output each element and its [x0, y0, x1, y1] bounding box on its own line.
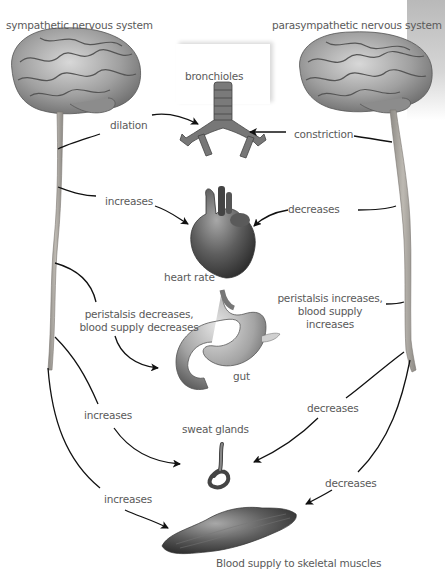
- dilation-arrow: [152, 114, 198, 124]
- para-sweat-effect: decreases: [307, 402, 358, 415]
- sym-bronchioles-effect: dilation: [110, 119, 147, 132]
- gut-icon: [176, 290, 280, 390]
- parasympathetic-title: parasympathetic nervous system: [272, 19, 442, 32]
- para-muscle-effect: decreases: [325, 477, 376, 490]
- skeletal-muscle-icon: [162, 507, 296, 553]
- sym-gut-effect-line1: peristalsis decreases,: [70, 308, 208, 321]
- gut-connector-right: [386, 302, 404, 304]
- heart-rate-label: heart rate: [164, 271, 215, 284]
- para-heart-effect: decreases: [288, 203, 339, 216]
- para-gut-effect-line1: peristalsis increases,: [276, 292, 384, 305]
- para-gut-effect-line3: increases: [276, 318, 384, 331]
- sweat-gland-icon: [210, 444, 229, 487]
- para-bronchioles-effect: constriction: [294, 128, 353, 141]
- para-gut-effect: peristalsis increases, blood supply incr…: [276, 292, 384, 331]
- bronchioles-label: bronchioles: [185, 70, 243, 83]
- sweat-arrow-right: [254, 418, 318, 462]
- right-brain-icon: [300, 32, 433, 113]
- sweat-connector-left: [55, 337, 98, 404]
- sym-heart-effect: increases: [105, 195, 153, 208]
- sym-gut-effect-line2: blood supply decreases: [70, 321, 208, 334]
- left-brain-icon: [12, 28, 141, 114]
- right-spinal-cord: [390, 110, 416, 372]
- gut-label: gut: [233, 370, 250, 383]
- sympathetic-title: sympathetic nervous system: [6, 19, 153, 32]
- sym-muscle-effect: increases: [104, 493, 152, 506]
- para-gut-effect-line2: blood supply: [276, 305, 384, 318]
- constriction-connector: [354, 136, 392, 142]
- sym-sweat-effect: increases: [84, 409, 132, 422]
- autonomic-nervous-system-diagram: sympathetic nervous system parasympathet…: [0, 0, 445, 583]
- heart-arrow-left: [155, 206, 188, 224]
- muscle-connector-right: [358, 360, 410, 472]
- gut-connector-left: [55, 263, 96, 302]
- muscle-arrow-right: [306, 490, 332, 504]
- sweat-arrow-left: [114, 428, 180, 464]
- dilation-connector: [58, 134, 100, 149]
- muscle-connector-left: [48, 368, 100, 488]
- sym-gut-effect: peristalsis decreases, blood supply decr…: [70, 308, 208, 334]
- bronchioles-icon: [180, 82, 266, 158]
- heart-arrow-right: [254, 210, 288, 226]
- left-spinal-cord: [48, 112, 63, 370]
- heart-icon: [191, 186, 255, 278]
- gut-arrow-left: [115, 336, 158, 368]
- heart-connector-right: [358, 206, 396, 210]
- sweat-connector-right: [346, 352, 404, 398]
- muscle-arrow-left: [125, 510, 168, 528]
- heart-connector-left: [58, 187, 96, 196]
- sweat-glands-label: sweat glands: [182, 423, 249, 436]
- skeletal-muscle-label: Blood supply to skeletal muscles: [216, 557, 381, 570]
